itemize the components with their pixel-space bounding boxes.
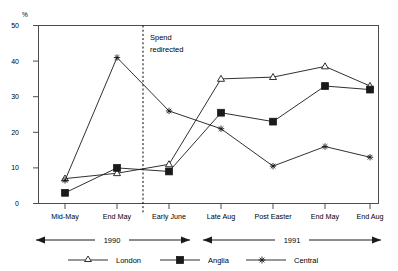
star-marker-icon (259, 257, 266, 264)
filled-square-marker-icon (177, 257, 184, 264)
series-london (62, 63, 374, 181)
x-tick-label: Early June (152, 212, 186, 221)
series-line (65, 86, 370, 193)
data-point-marker (322, 83, 329, 90)
period-label-1990: 1990 (104, 236, 121, 245)
data-point-marker (270, 163, 276, 169)
x-tick-label: End May (311, 212, 340, 221)
legend-item-central[interactable]: Central (246, 256, 319, 265)
y-axis-ticks: 50 40 30 20 10 0 (11, 22, 38, 207)
x-tick-label: Post Easter (254, 212, 292, 221)
y-axis-unit-label: % (22, 11, 28, 18)
data-point-marker (166, 168, 173, 175)
legend-label-anglia: Anglia (208, 256, 230, 265)
data-point-marker (270, 118, 277, 125)
legend-item-london[interactable]: London (68, 256, 141, 265)
data-point-marker (218, 109, 225, 116)
x-tick-label: Late Aug (207, 212, 235, 221)
data-point-marker (114, 54, 120, 60)
x-tick-label: End Aug (356, 212, 383, 221)
data-point-marker (62, 189, 69, 196)
data-point-marker (166, 161, 173, 167)
x-axis-labels: Mid-May End May Early June Late Aug Post… (51, 212, 383, 221)
data-point-marker (367, 86, 374, 93)
data-point-marker (62, 177, 68, 183)
x-tick-label: End May (103, 212, 132, 221)
legend-label-london: London (116, 256, 141, 265)
annotation-line-1: Spend (150, 33, 172, 42)
period-label-1991: 1991 (284, 236, 301, 245)
data-point-marker (218, 75, 225, 81)
period-band-1991: 1991 (203, 234, 381, 246)
legend-label-central: Central (294, 256, 319, 265)
series-line (65, 58, 370, 181)
data-point-marker (218, 126, 224, 132)
data-point-marker (166, 108, 172, 114)
y-tick-label: 20 (11, 129, 19, 136)
chart-legend: London Anglia Central (68, 256, 319, 265)
data-point-marker (114, 165, 121, 172)
legend-item-anglia[interactable]: Anglia (160, 256, 230, 265)
series-central (62, 54, 373, 183)
y-tick-label: 0 (15, 200, 19, 207)
y-tick-label: 10 (11, 164, 19, 171)
chart-container: % 50 40 30 20 10 0 Mid-M (0, 0, 398, 271)
line-chart: % 50 40 30 20 10 0 Mid-M (0, 0, 398, 271)
x-axis-ticks (65, 204, 370, 210)
open-triangle-marker-icon (85, 256, 92, 262)
annotation-line-2: redirected (150, 45, 183, 54)
plot-frame (39, 26, 379, 204)
series-layer (62, 54, 374, 196)
data-point-marker (322, 63, 329, 69)
y-tick-label: 30 (11, 93, 19, 100)
series-anglia (62, 83, 374, 197)
y-tick-label: 50 (11, 22, 19, 29)
data-point-marker (367, 154, 373, 160)
period-band-1990: 1990 (36, 234, 190, 246)
data-point-marker (322, 143, 328, 149)
x-tick-label: Mid-May (51, 212, 79, 221)
y-tick-label: 40 (11, 58, 19, 65)
